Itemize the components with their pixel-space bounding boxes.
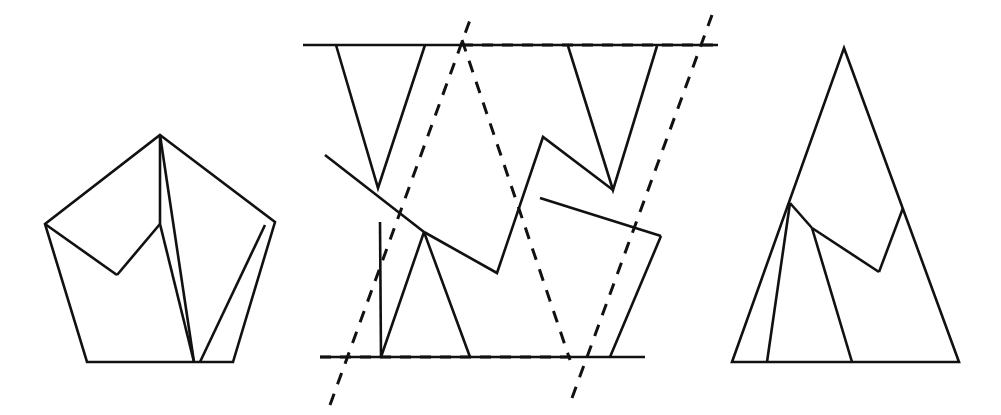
zigzag-center: [424, 137, 613, 273]
dashed-steep-left: [330, 20, 470, 405]
chord-right-vertex-to-base-vee: [200, 225, 265, 362]
vee-lower-left: [380, 222, 381, 357]
vee-upper-right: [568, 46, 657, 190]
figures-canvas: [0, 0, 1001, 415]
figure-middle-zigzag-band-with-dashed-parallels: [303, 15, 718, 405]
chord-notch-to-right-edge: [879, 208, 903, 272]
chord-notch-left-to-ridge: [117, 224, 160, 275]
slant-line-left: [325, 155, 424, 232]
chord-left-edge-to-base: [767, 203, 790, 362]
figure-left-pentagon-with-zigzag-chords: [45, 135, 275, 362]
chord-ridge-to-base: [812, 228, 852, 362]
figure-sheet: [0, 0, 1001, 415]
chord-apex-to-notch-left: [45, 224, 117, 275]
dashed-chevron: [462, 40, 570, 360]
triangle-outline: [732, 48, 959, 362]
chord-left-edge-to-ridge: [790, 203, 812, 228]
figure-right-triangle-with-zigzag-chords: [732, 48, 959, 362]
vee-upper-left: [336, 45, 425, 188]
dashed-steep-right: [572, 15, 712, 398]
post-lower-right: [610, 236, 661, 357]
